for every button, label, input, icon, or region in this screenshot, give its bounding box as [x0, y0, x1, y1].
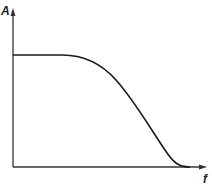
response-curve: [13, 55, 190, 167]
y-axis: [11, 8, 16, 167]
x-axis-arrow-icon: [199, 165, 207, 170]
y-axis-label: A: [1, 4, 10, 18]
x-axis-label: f: [203, 172, 207, 184]
x-axis: [13, 165, 207, 170]
response-diagram: [0, 0, 212, 184]
y-axis-arrow-icon: [11, 8, 16, 16]
